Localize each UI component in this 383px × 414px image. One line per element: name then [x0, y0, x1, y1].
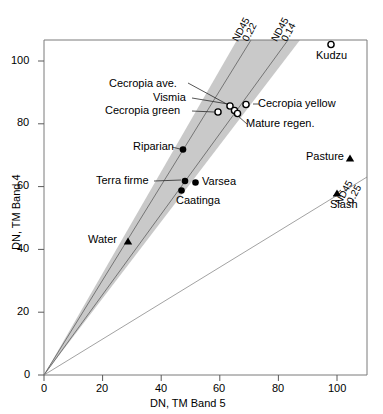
- label-cecropia-green: Cecropia green: [105, 105, 180, 117]
- x-axis-title: DN, TM Band 5: [150, 398, 226, 410]
- marker-terra-firme: [182, 178, 189, 185]
- x-tick-20: 20: [96, 383, 108, 395]
- x-axis-ticks: [44, 375, 337, 381]
- marker-kudzu: [328, 41, 334, 47]
- x-tick-100: 100: [328, 383, 346, 395]
- x-tick-40: 40: [155, 383, 167, 395]
- nd45-neg025-line: [44, 177, 367, 375]
- marker-cecropia-yellow: [243, 101, 249, 107]
- label-riparian: Riparian: [133, 141, 174, 153]
- label-pasture: Pasture: [306, 151, 344, 163]
- x-tick-80: 80: [272, 383, 284, 395]
- x-tick-60: 60: [213, 383, 225, 395]
- label-cecropia-ave: Cecropia ave.: [109, 78, 177, 90]
- label-cecropia-yellow: Cecropia yellow: [258, 98, 336, 110]
- marker-caatinga: [178, 187, 185, 194]
- nd45-022-line: [44, 40, 251, 375]
- label-mature-regen: Mature regen.: [246, 118, 314, 130]
- label-water: Water: [88, 234, 117, 246]
- label-caatinga: Caatinga: [176, 195, 220, 207]
- y-tick-20: 20: [17, 306, 29, 318]
- marker-riparian: [180, 146, 187, 153]
- y-tick-0: 0: [24, 369, 30, 381]
- plot-canvas: [0, 0, 383, 414]
- label-varsea: Varsea: [202, 176, 236, 188]
- marker-pasture: [346, 155, 354, 162]
- label-vismia: Vismia: [153, 92, 186, 104]
- marker-cecropia-green: [215, 109, 221, 115]
- label-kudzu: Kudzu: [316, 50, 347, 62]
- y-axis-title: DN, TM Band 4: [11, 174, 23, 250]
- label-terra-firme: Terra firme: [96, 175, 149, 187]
- plot-frame: [44, 40, 367, 375]
- x-tick-0: 0: [41, 383, 47, 395]
- scatter-plot-figure: 0 20 40 60 80 100 0 20 40 60 80 100 DN, …: [0, 0, 383, 414]
- y-tick-100: 100: [11, 55, 29, 67]
- marker-mature-regen: [234, 110, 240, 116]
- y-axis-ticks: [38, 61, 44, 375]
- y-tick-80: 80: [17, 117, 29, 129]
- marker-varsea: [192, 179, 199, 186]
